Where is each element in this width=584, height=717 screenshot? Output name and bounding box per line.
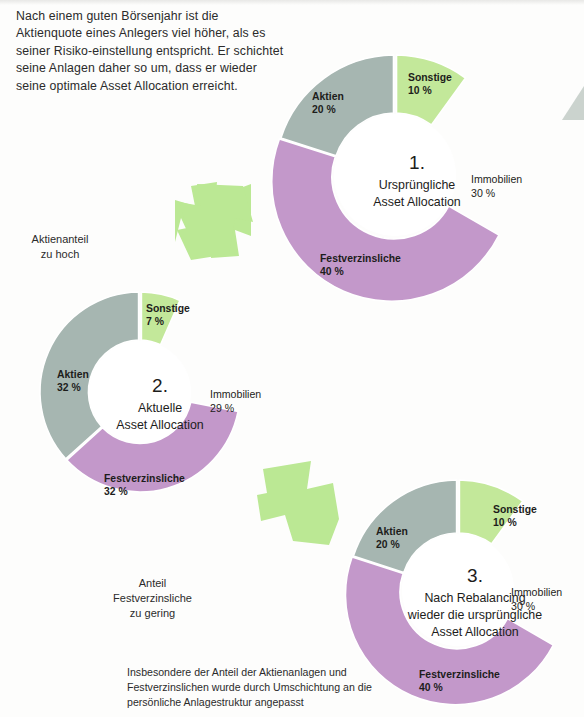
chart1-label-fest-name: Festverzinsliche bbox=[320, 253, 401, 264]
chart2-label-fest-name: Festverzinsliche bbox=[104, 473, 185, 484]
chart3-label-aktien-pct: 20 % bbox=[376, 539, 400, 550]
chart1-label-fest-pct: 40 % bbox=[320, 266, 344, 277]
note-festverzinsliche: Anteil Festverzinsliche zu gering bbox=[90, 576, 215, 621]
note-aktienanteil: Aktienanteil zu hoch bbox=[0, 232, 120, 262]
note-festverzinsliche-line2: Festverzinsliche bbox=[90, 591, 215, 606]
chart1-label-immobilien: Immobilien 30 % bbox=[471, 172, 522, 200]
top-edge-shadow bbox=[0, 0, 584, 5]
chart2-label-aktien-name: Aktien bbox=[57, 369, 89, 380]
chart3-label-immobilien-pct: 30 % bbox=[511, 599, 562, 613]
chart2-center-line2: Asset Allocation bbox=[116, 418, 204, 432]
chart2-label-aktien-pct: 32 % bbox=[57, 382, 81, 393]
chart3-label-sonstige-name: Sonstige bbox=[493, 504, 537, 515]
chart3-label-fest-pct: 40 % bbox=[419, 682, 443, 693]
chart1-label-aktien-pct: 20 % bbox=[312, 104, 336, 115]
chart1-label-immobilien-pct: 30 % bbox=[471, 186, 522, 200]
chart3-center-line3: Asset Allocation bbox=[431, 625, 519, 639]
note-aktienanteil-line1: Aktienanteil bbox=[0, 232, 120, 247]
chart3-label-aktien-name: Aktien bbox=[376, 526, 408, 537]
chart2-label-sonstige-name: Sonstige bbox=[146, 303, 190, 314]
note-aktienanteil-line2: zu hoch bbox=[0, 247, 120, 262]
arrow-2-icon bbox=[257, 461, 339, 545]
intro-paragraph: Nach einem guten Börsenjahr ist die Akti… bbox=[16, 8, 284, 95]
chart2-label-sonstige-pct: 7 % bbox=[146, 316, 164, 327]
arrow-chart1-to-chart2-shape bbox=[173, 178, 259, 260]
chart1-label-immobilien-name: Immobilien bbox=[471, 172, 522, 186]
chart1-center-line2: Asset Allocation bbox=[373, 195, 461, 209]
chart1-center-number: 1. bbox=[409, 152, 425, 173]
chart1-label-sonstige-pct: 10 % bbox=[408, 85, 432, 96]
chart3-label-sonstige-pct: 10 % bbox=[493, 517, 517, 528]
chart2-label-immobilien-pct: 29 % bbox=[210, 401, 261, 415]
chart2-center-number: 2. bbox=[152, 375, 168, 396]
note-festverzinsliche-line3: zu gering bbox=[90, 606, 215, 621]
arrow-1-body bbox=[177, 184, 253, 260]
chart2-label-immobilien-name: Immobilien bbox=[210, 387, 261, 401]
chart1-center-line1: Ursprüngliche bbox=[379, 178, 456, 192]
arrow-chart2-to-chart3 bbox=[253, 459, 345, 547]
chart1-label-aktien-name: Aktien bbox=[312, 91, 344, 102]
chart3-label-immobilien: Immobilien 30 % bbox=[511, 585, 562, 613]
chart3-label-fest-name: Festverzinsliche bbox=[419, 669, 500, 680]
chart1-label-sonstige-name: Sonstige bbox=[408, 72, 452, 83]
chart3-label-immobilien-name: Immobilien bbox=[511, 585, 562, 599]
bottom-caption: Insbesondere der Anteil der Aktienanlage… bbox=[127, 665, 417, 711]
note-festverzinsliche-line1: Anteil bbox=[90, 576, 215, 591]
infographic-page: Nach einem guten Börsenjahr ist die Akti… bbox=[0, 0, 584, 717]
chart2-label-fest-pct: 32 % bbox=[104, 486, 128, 497]
chart3-center-number: 3. bbox=[467, 565, 483, 586]
chart2-center-line1: Aktuelle bbox=[138, 401, 182, 415]
chart1-hole bbox=[334, 114, 456, 236]
corner-wedge-decoration bbox=[562, 86, 584, 120]
chart2-label-immobilien: Immobilien 29 % bbox=[210, 387, 261, 415]
